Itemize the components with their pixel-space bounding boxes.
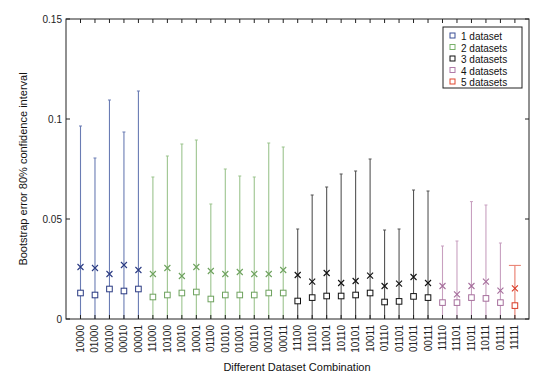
legend-label: 3 datasets [461,54,507,65]
square-marker [295,298,301,304]
legend-marker [450,33,455,38]
x-tick-label: 01111 [495,325,506,351]
y-tick-label: 0.05 [43,214,63,225]
square-marker [425,295,431,301]
x-tick-label: 01110 [379,325,390,352]
square-marker [237,292,243,298]
x-tick-label: 11010 [307,325,318,353]
x-tick-label: 11011 [466,325,477,352]
square-marker [251,292,257,298]
x-tick-label: 01100 [205,325,216,353]
square-marker [440,300,446,306]
square-marker [150,294,156,300]
x-tick-label: 00001 [133,325,144,353]
x-tick-label: 11111 [509,325,520,350]
x-tick-label: 01011 [408,325,419,353]
square-marker [266,290,272,296]
square-marker [512,303,518,309]
x-tick-label: 01101 [394,325,405,353]
legend-marker [450,56,455,61]
x-tick-label: 00011 [278,325,289,353]
y-axis-title: Bootstrap error 80% confidence interval [17,72,29,265]
legend-marker [450,68,455,73]
x-tick-label: 01010 [220,325,231,353]
square-marker [469,295,475,301]
x-tick-label: 00111 [423,325,434,352]
square-marker [179,290,185,296]
square-marker [165,292,171,298]
square-marker [396,299,402,305]
x-tick-label: 01001 [234,325,245,353]
square-marker [280,290,286,296]
x-tick-label: 00110 [249,325,260,353]
square-marker [324,293,330,299]
x-tick-label: 00100 [104,325,115,353]
errorbar-chart: 00.050.10.15 100000100000100000100000111… [0,0,544,390]
square-marker [208,296,214,302]
square-marker [136,286,142,292]
x-tick-label: 10111 [480,325,491,352]
square-marker [78,290,84,296]
square-marker [367,290,373,296]
legend-label: 4 datasets [461,66,507,77]
errorbar-series [78,91,521,319]
x-tick-label: 00010 [118,325,129,353]
legend-label: 5 datasets [461,77,507,88]
square-marker [92,292,98,298]
legend-label: 1 dataset [461,31,502,42]
square-marker [454,300,460,306]
square-marker [483,296,489,302]
x-tick-label: 10011 [365,325,376,353]
x-tick-label: 11100 [292,325,303,352]
legend: 1 dataset2 datasets3 datasets4 datasets5… [443,27,522,88]
x-tick-label: 11110 [437,325,448,351]
x-tick-label: 11101 [451,325,462,352]
y-tick-label: 0.15 [43,14,63,25]
square-marker [338,293,344,299]
square-marker [382,299,388,305]
square-marker [353,292,359,298]
legend-label: 2 datasets [461,43,507,54]
y-tick-label: 0.1 [48,114,62,125]
x-tick-label: 10001 [191,325,202,353]
x-tick-label: 10110 [336,325,347,353]
x-tick-label: 11001 [321,325,332,353]
x-tick-label: 10101 [350,325,361,353]
x-tick-label: 10000 [75,325,86,353]
square-marker [498,300,504,306]
legend-marker [450,79,455,84]
legend-marker [450,45,455,50]
x-tick-label: 11000 [147,325,158,353]
x-tick-label: 01000 [89,325,100,353]
y-tick-label: 0 [56,314,62,325]
square-marker [411,294,417,300]
square-marker [309,295,315,301]
x-tick-label: 00101 [263,325,274,353]
square-marker [223,292,229,298]
x-tick-label: 10100 [162,325,173,353]
square-marker [107,286,113,292]
x-axis-title: Different Dataset Combination [223,361,370,373]
square-marker [194,289,200,295]
x-tick-label: 10010 [176,325,187,353]
square-marker [121,288,127,294]
